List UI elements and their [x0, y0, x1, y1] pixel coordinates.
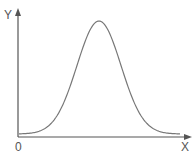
bell-curve-diagram — [0, 0, 196, 160]
y-axis-label: Y — [4, 9, 12, 21]
origin-label: 0 — [15, 141, 22, 153]
x-axis-label: X — [181, 141, 189, 153]
bell-curve — [19, 21, 180, 134]
